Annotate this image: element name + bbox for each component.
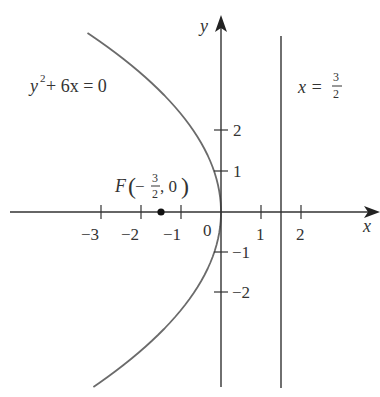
focus-point <box>157 208 164 215</box>
x-tick-label: −1 <box>163 225 181 244</box>
y-tick-label: 1 <box>233 162 242 181</box>
x-tick-label: 2 <box>296 225 305 244</box>
focus-den: 2 <box>152 187 158 201</box>
origin-label: 0 <box>203 221 212 240</box>
parabola-diagram: −3 −2 −1 1 2 0 2 1 −1 −2 x y y 2 + 6x = … <box>0 0 380 397</box>
directrix-den: 2 <box>333 87 339 101</box>
equation-base: y <box>28 76 38 96</box>
y-tick-label: −1 <box>232 243 250 262</box>
focus-name: F <box>114 176 127 196</box>
directrix-label: x = 3 2 <box>297 70 342 101</box>
equation-sup: 2 <box>40 72 46 84</box>
x-tick-label: −3 <box>81 225 99 244</box>
focus-num: 3 <box>152 171 158 185</box>
focus-label: F ( − 3 2 , 0 ) <box>114 171 189 201</box>
equation-rest: + 6x = 0 <box>46 76 107 96</box>
directrix-num: 3 <box>333 70 339 84</box>
directrix-lhs: x = <box>297 77 323 97</box>
y-tick-label: −2 <box>232 283 250 302</box>
focus-minus: − <box>135 177 145 196</box>
y-axis-label: y <box>198 16 208 36</box>
parabola-curve <box>88 33 222 387</box>
focus-rest: , 0 <box>160 177 177 196</box>
focus-close-paren: ) <box>181 173 189 199</box>
x-tick-label: −2 <box>121 225 139 244</box>
equation-label: y 2 + 6x = 0 <box>28 72 107 96</box>
x-tick-label: 1 <box>256 225 265 244</box>
y-tick-label: 2 <box>233 121 242 140</box>
x-axis-label: x <box>362 216 371 236</box>
